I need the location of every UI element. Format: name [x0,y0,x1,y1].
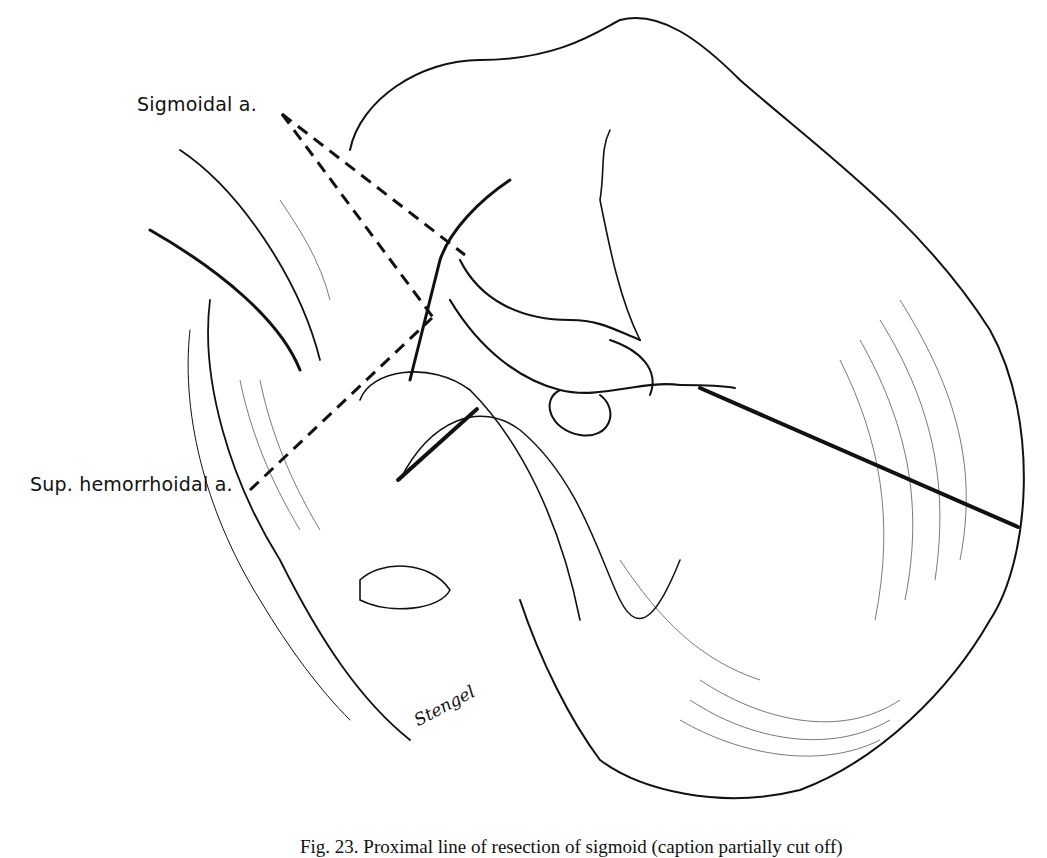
colon-fold [400,416,680,618]
distal-resection-line [398,409,477,480]
vessel-to-bowel [680,385,735,388]
pelvic-wall [208,300,410,740]
sigmoid-loop [360,372,580,620]
proximal-resection-line [700,388,1018,527]
sigmoidal-dashed-line-2 [282,114,435,320]
hemorrhoidal-dashed-line [250,318,432,490]
retractor-edge [180,150,320,360]
superior-hemorrhoidal-artery-label: Sup. hemorrhoidal a. [30,473,233,495]
arcade-1 [460,260,640,340]
sigmoidal-artery-trunk [410,180,510,380]
sigmoidal-dashed-line-1 [282,114,465,255]
arcade-loop-1 [550,390,611,436]
retractor-edge-2 [150,230,300,370]
sigmoidal-artery-label: Sigmoidal a. [137,93,257,115]
arcade-2 [450,300,680,393]
vessel-branch [600,130,640,340]
figure-caption: Fig. 23. Proximal line of resection of s… [300,836,843,858]
rectal-stump [360,566,450,609]
colon-outline [350,18,1024,798]
